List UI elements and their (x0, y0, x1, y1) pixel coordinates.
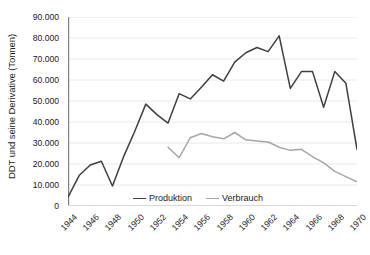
y-tick-label: 20.000 (33, 159, 59, 169)
chart-container: DDT und seine Derivative (Tonnen) 010.00… (0, 0, 370, 255)
y-tick-label: 60.000 (33, 75, 59, 85)
y-tick-label: 70.000 (33, 54, 59, 64)
plot-area (68, 17, 357, 206)
gridlines (68, 17, 357, 185)
y-tick-label: 40.000 (33, 117, 59, 127)
axis-lines (68, 17, 357, 206)
y-tick-label: 30.000 (33, 138, 59, 148)
y-tick-label: 80.000 (33, 33, 59, 43)
y-tick-label: 0 (54, 201, 59, 211)
legend-label: Verbrauch (222, 193, 263, 203)
y-tick-label: 90.000 (33, 12, 59, 22)
plot-svg (68, 17, 357, 206)
y-axis-title: DDT und seine Derivative (Tonnen) (0, 0, 22, 212)
legend-line-swatch (206, 198, 219, 199)
chart-legend: ProduktionVerbrauch (130, 192, 266, 204)
x-axis-tick-labels: 1944194619481950195219541956195819601962… (68, 206, 357, 255)
y-tick-label: 50.000 (33, 96, 59, 106)
y-axis-title-text: DDT und seine Derivative (Tonnen) (6, 34, 17, 179)
y-axis-tick-labels: 010.00020.00030.00040.00050.00060.00070.… (20, 0, 64, 255)
y-tick-label: 10.000 (33, 180, 59, 190)
data-series (68, 36, 357, 197)
legend-item[interactable]: Verbrauch (206, 193, 263, 203)
series-line-verbrauch (168, 133, 357, 182)
legend-label: Produktion (149, 193, 192, 203)
legend-line-swatch (133, 198, 146, 199)
legend-item[interactable]: Produktion (133, 193, 192, 203)
series-line-produktion (68, 36, 357, 197)
